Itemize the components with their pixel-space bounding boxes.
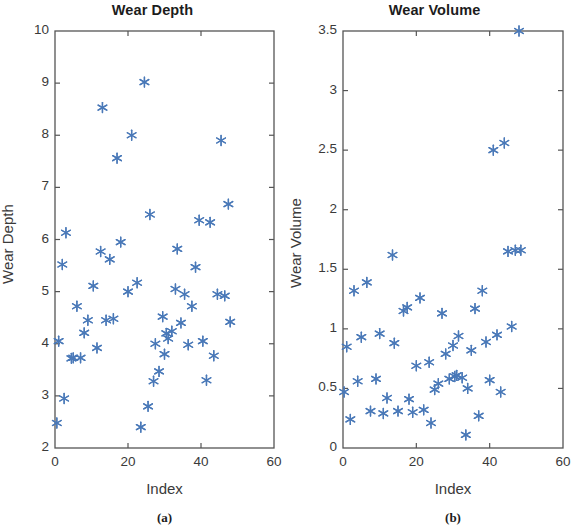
y-tick-label: 3.5: [291, 22, 337, 37]
x-tick-label: 0: [35, 454, 75, 469]
y-tick-label: 9: [3, 74, 49, 89]
y-tick-label: 0.5: [291, 379, 337, 394]
panel-wear-volume: Wear Volume Wear Volume Index (b) 00.511…: [288, 0, 577, 528]
x-axis-label-a: Index: [15, 480, 314, 497]
axes-wear-volume: [288, 0, 577, 490]
y-tick-label: 2.5: [291, 141, 337, 156]
panel-wear-depth: Wear Depth Wear Depth Index (a) 23456789…: [0, 0, 289, 528]
y-tick-label: 0: [291, 439, 337, 454]
y-tick-label: 2: [291, 201, 337, 216]
y-tick-label: 8: [3, 126, 49, 141]
y-tick-label: 1: [291, 320, 337, 335]
figure-scatter-pair: Wear Depth Wear Depth Index (a) 23456789…: [0, 0, 577, 528]
plot-box: [343, 31, 563, 448]
y-tick-label: 4: [3, 335, 49, 350]
x-tick-label: 40: [470, 454, 510, 469]
x-tick-label: 0: [323, 454, 363, 469]
x-tick-label: 40: [181, 454, 221, 469]
y-tick-label: 2: [3, 439, 49, 454]
y-tick-label: 7: [3, 178, 49, 193]
y-tick-label: 3: [3, 387, 49, 402]
y-tick-label: 3: [291, 82, 337, 97]
plot-box: [55, 31, 274, 448]
x-axis-label-b: Index: [303, 480, 577, 497]
subcaption-a: (a): [15, 510, 314, 526]
x-tick-label: 20: [108, 454, 148, 469]
y-tick-label: 5: [3, 283, 49, 298]
y-tick-label: 6: [3, 231, 49, 246]
y-tick-label: 10: [3, 22, 49, 37]
y-tick-label: 1.5: [291, 260, 337, 275]
x-tick-label: 60: [543, 454, 577, 469]
x-tick-label: 20: [396, 454, 436, 469]
subcaption-b: (b): [303, 510, 577, 526]
